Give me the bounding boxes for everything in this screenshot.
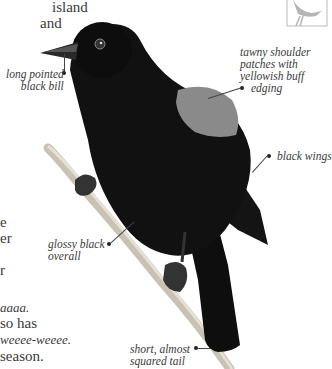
shoulder-label: tawny shoulder patches with yellowish bu…	[240, 46, 311, 94]
bird-silhouette-thumbnail-icon	[287, 0, 327, 26]
tail-label: short, almost squared tail	[130, 343, 190, 367]
bill-label: long pointed black bill	[6, 68, 64, 92]
shoulder-label-line4: edging	[240, 82, 311, 94]
body-text-line: so has	[0, 314, 37, 332]
body-text-line: season.	[0, 347, 44, 365]
glossy-label: glossy black overall	[48, 238, 105, 262]
body-text-line: er	[0, 229, 12, 247]
shoulder-label-line1: tawny shoulder	[240, 46, 311, 58]
tail-leader-line	[197, 348, 211, 349]
glossy-label-line2: overall	[48, 250, 105, 262]
wings-label: black wings	[277, 150, 332, 162]
body-text-line: and	[40, 14, 62, 32]
bill-label-line2: black bill	[6, 80, 64, 92]
glossy-label-line1: glossy black	[48, 238, 105, 250]
bill-label-line1: long pointed	[6, 68, 64, 80]
bill-leader-line	[64, 54, 65, 72]
shoulder-label-line2: patches with	[240, 58, 311, 70]
tail-label-line2: squared tail	[130, 355, 190, 367]
body-text-line: r	[0, 261, 5, 279]
tail-label-line1: short, almost	[130, 343, 190, 355]
shoulder-label-line3: yellowish buff	[240, 70, 311, 82]
